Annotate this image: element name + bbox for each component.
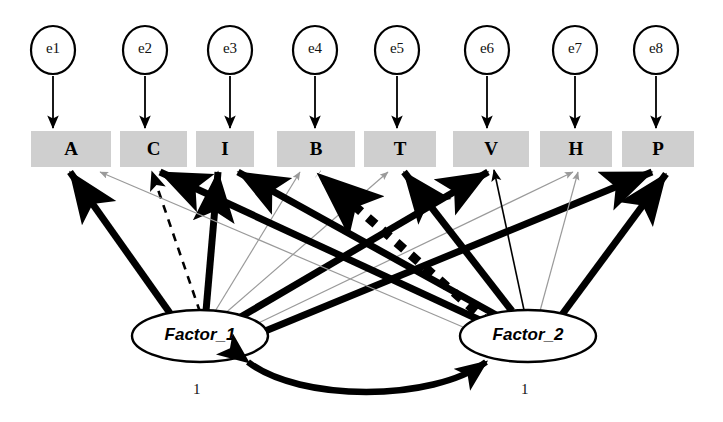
error-variance-paths [53,76,656,128]
observed-label-a: A [64,138,78,160]
factor-loading-paths [70,170,666,334]
loading-path-factor_2-to-p [558,174,666,320]
factor-label-f1: Factor_1 [132,325,268,345]
observed-label-i: I [221,138,228,160]
error-label-e3: e3 [208,40,252,57]
observed-label-t: T [394,138,407,160]
observed-box-p[interactable]: P [622,131,694,167]
observed-box-a[interactable]: A [31,131,111,167]
observed-label-h: H [569,138,584,160]
observed-label-b: B [310,138,323,160]
diagram-canvas [0,0,723,422]
error-label-e4: e4 [293,40,337,57]
error-label-e6: e6 [465,40,509,57]
observed-label-p: P [652,138,664,160]
observed-box-b[interactable]: B [277,131,355,167]
factor-covariance-path [248,362,486,392]
error-label-e2: e2 [123,40,167,57]
observed-box-c[interactable]: C [120,131,187,167]
factor-variance-label-f1: 1 [193,381,201,398]
observed-box-h[interactable]: H [540,131,612,167]
error-label-e7: e7 [553,40,597,57]
error-label-e8: e8 [634,40,678,57]
observed-box-i[interactable]: I [196,131,254,167]
observed-label-c: C [147,138,161,160]
loading-path-factor_2-to-h [540,172,578,311]
covariance-path-f1-f2 [248,362,486,392]
factor-label-f2: Factor_2 [460,325,596,345]
sem-path-diagram: e1e2e3e4e5e6e7e8ACIBTVHPFactor_11Factor_… [0,0,723,422]
factor-variance-label-f2: 1 [521,381,529,398]
error-label-e5: e5 [375,40,419,57]
observed-box-v[interactable]: V [453,131,529,167]
observed-label-v: V [484,138,498,160]
error-label-e1: e1 [31,40,75,57]
loading-path-factor_1-to-c [152,172,200,312]
loading-path-factor_1-to-v [232,172,488,322]
loading-path-factor_1-to-a [70,172,172,316]
observed-box-t[interactable]: T [364,131,436,167]
